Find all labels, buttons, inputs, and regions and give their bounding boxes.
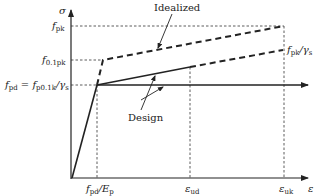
label-fpk-gamma: fpk/γs [286,44,313,57]
label-fpk: fpk [51,20,65,33]
label-eps-ud: εud [185,183,200,196]
design-label: Design [128,112,164,123]
idealized-label: Idealized [154,2,201,13]
label-fpd: fpd = fp0.1k/γs [4,79,69,92]
y-axis-label: σ [59,5,67,16]
design-curve [97,67,190,85]
design-pointer-2 [141,87,163,100]
elastic-line [72,85,97,178]
label-eps-uk: εuk [279,183,294,196]
stress-strain-diagram: Idealized Design σ ε fpk f0.1pk fpd = fp… [0,0,315,196]
idealized-pointer [158,14,172,48]
reference-lines [71,26,284,178]
label-fpd-ep: fpd/Ep [85,183,114,196]
label-f01pk: f0.1pk [41,54,66,67]
idealized-curve [97,26,284,85]
x-axis-label: ε [308,183,313,194]
design-curve-extension [190,50,283,67]
